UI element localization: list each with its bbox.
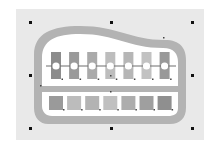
bar-knob-5[interactable] [125, 62, 132, 69]
bar-knob-3[interactable] [89, 62, 96, 69]
bar-anchor-6 [152, 79, 154, 81]
path-anchor [110, 91, 112, 93]
swatch-7[interactable] [158, 96, 172, 110]
swatch-anchor-1 [63, 109, 65, 111]
swatch-anchor-7 [172, 109, 174, 111]
selection-handle-top-right[interactable] [191, 21, 194, 24]
bar-knob-6[interactable] [143, 62, 150, 69]
swatch-anchor-3 [99, 109, 101, 111]
bar-anchor-3 [98, 79, 100, 81]
bar-knob-4[interactable] [107, 62, 114, 69]
swatch-4[interactable] [103, 96, 117, 110]
selection-handle-bottom-right[interactable] [191, 127, 194, 130]
bar-anchor-1 [62, 79, 64, 81]
bar-anchor-2 [80, 79, 82, 81]
swatch-3[interactable] [85, 96, 99, 110]
bar-knob-2[interactable] [71, 62, 78, 69]
selection-handle-top-center[interactable] [110, 21, 113, 24]
swatch-2[interactable] [67, 96, 81, 110]
path-anchor [40, 85, 42, 87]
bar-anchor-4 [116, 79, 118, 81]
bar-anchor-7 [170, 79, 172, 81]
swatch-anchor-2 [81, 109, 83, 111]
path-anchor [163, 37, 165, 39]
design-canvas[interactable] [0, 0, 215, 146]
bar-anchor-5 [134, 79, 136, 81]
selection-handle-bottom-center[interactable] [110, 127, 113, 130]
selection-handle-middle-right[interactable] [191, 74, 194, 77]
swatch-anchor-4 [117, 109, 119, 111]
swatch-1[interactable] [49, 96, 63, 110]
selection-handle-top-left[interactable] [29, 21, 32, 24]
swatch-anchor-5 [135, 109, 137, 111]
bar-knob-1[interactable] [52, 62, 59, 69]
selection-handle-bottom-left[interactable] [29, 127, 32, 130]
swatch-6[interactable] [140, 96, 154, 110]
squares-group [49, 96, 172, 110]
bar-knob-7[interactable] [161, 62, 168, 69]
swatch-5[interactable] [121, 96, 135, 110]
path-anchor [110, 75, 112, 77]
selection-handle-middle-left[interactable] [29, 74, 32, 77]
swatch-anchor-6 [154, 109, 156, 111]
